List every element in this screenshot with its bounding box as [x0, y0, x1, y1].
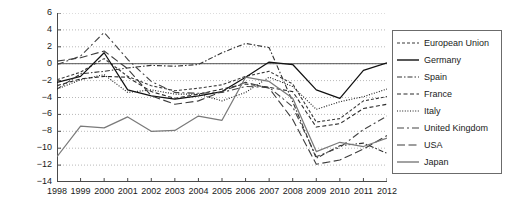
legend-line-swatch: [396, 38, 420, 48]
legend-line-swatch: [396, 157, 420, 167]
y-axis-tick-label: 2: [22, 42, 52, 51]
legend-item-japan[interactable]: Japan: [396, 153, 498, 170]
legend-item-label: Spain: [424, 72, 447, 82]
series-line-united-kingdom: [57, 32, 387, 156]
legend-item-european-union[interactable]: European Union: [396, 34, 498, 51]
legend-line-swatch: [396, 55, 420, 65]
legend-item-italy[interactable]: Italy: [396, 102, 498, 119]
y-axis-tick-label: −12: [22, 160, 52, 169]
y-axis-tick-label: 0: [22, 59, 52, 68]
legend-item-label: European Union: [424, 38, 489, 48]
series-line-usa: [57, 51, 387, 164]
legend-item-label: Italy: [424, 106, 441, 116]
y-axis: 6420−2−4−6−8−10−12−14: [18, 13, 52, 182]
y-axis-tick-label: 4: [22, 25, 52, 34]
legend-item-label: United Kingdom: [424, 123, 488, 133]
legend-item-label: USA: [424, 140, 443, 150]
x-axis: 1998199920002001200220032004200520062007…: [57, 186, 387, 202]
legend-line-swatch: [396, 106, 420, 116]
y-axis-tick-label: −6: [22, 109, 52, 118]
plot-area: [57, 13, 387, 182]
plot-svg: [57, 13, 387, 182]
legend-line-swatch: [396, 72, 420, 82]
legend-line-swatch: [396, 89, 420, 99]
legend-item-united-kingdom[interactable]: United Kingdom: [396, 119, 498, 136]
chart-container: 6420−2−4−6−8−10−12−14 199819992000200120…: [0, 0, 506, 215]
series-line-european-union: [57, 59, 387, 122]
legend-item-france[interactable]: France: [396, 85, 498, 102]
legend-line-swatch: [396, 123, 420, 133]
x-axis-tick-label: 2012: [372, 186, 402, 196]
legend-item-usa[interactable]: USA: [396, 136, 498, 153]
legend-item-spain[interactable]: Spain: [396, 68, 498, 85]
legend-item-germany[interactable]: Germany: [396, 51, 498, 68]
legend-item-label: Germany: [424, 55, 461, 65]
y-axis-tick-label: −14: [22, 177, 52, 186]
y-axis-tick-label: −4: [22, 93, 52, 102]
chart-legend: European UnionGermanySpainFranceItalyUni…: [392, 30, 502, 174]
legend-item-label: France: [424, 89, 452, 99]
legend-line-swatch: [396, 140, 420, 150]
y-axis-tick-label: −10: [22, 143, 52, 152]
y-axis-tick-label: −8: [22, 126, 52, 135]
legend-item-label: Japan: [424, 157, 449, 167]
y-axis-tick-label: 6: [22, 8, 52, 17]
y-axis-tick-label: −2: [22, 76, 52, 85]
